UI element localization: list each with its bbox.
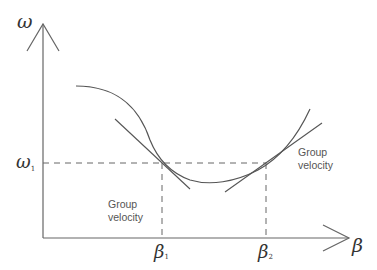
y-axis-label: ω (17, 10, 33, 32)
guide-lines (43, 163, 266, 238)
dispersion-curve (76, 86, 310, 183)
beta1-label: β1 (153, 241, 169, 262)
group-velocity-label-left: Group velocity (108, 198, 144, 223)
beta2-label: β2 (257, 241, 273, 262)
group-velocity-label-right: Group velocity (298, 146, 334, 171)
dispersion-diagram: ω β ω1 β1 β2 Group velocity Group veloci… (0, 0, 377, 270)
tangent-line-1 (115, 119, 190, 189)
y-axis (27, 24, 59, 238)
omega1-label: ω1 (16, 151, 35, 173)
x-axis-label: β (351, 234, 363, 256)
x-axis (43, 225, 349, 251)
